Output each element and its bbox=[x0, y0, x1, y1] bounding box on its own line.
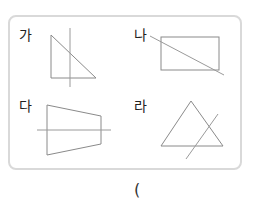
shape-da-trapezoid bbox=[37, 105, 111, 155]
shape-ra-triangle bbox=[161, 101, 223, 159]
shapes-canvas bbox=[0, 0, 261, 204]
answer-parenthesis: ( bbox=[134, 180, 140, 199]
shape-ga-right-triangle bbox=[51, 28, 96, 87]
shape-na-rectangle bbox=[150, 36, 224, 75]
